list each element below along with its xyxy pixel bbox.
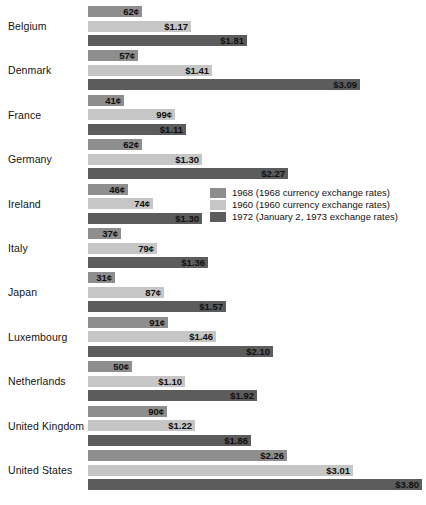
bar-value-label: 31¢	[96, 271, 115, 284]
bar-group: 74¢	[88, 198, 153, 209]
bar-value-label: $1.57	[199, 300, 226, 313]
bar-value-label: $1.41	[185, 64, 212, 77]
bar-value-label: $1.46	[189, 330, 216, 343]
bar-value-label: $1.30	[175, 153, 202, 166]
bar-group: 62¢	[88, 6, 142, 17]
bar-value-label: 99¢	[156, 108, 175, 121]
chart-row: Italy37¢79¢$1.36	[0, 228, 426, 268]
bar-value-label: $3.01	[326, 464, 353, 477]
bar	[88, 479, 422, 490]
category-label: Germany	[8, 153, 52, 165]
bar-group: $1.86	[88, 435, 251, 446]
bar	[88, 465, 353, 476]
legend-item: 1972 (January 2, 1973 exchange rates)	[210, 211, 422, 223]
bar-group: 50¢	[88, 361, 132, 372]
bar-group: $1.81	[88, 35, 247, 46]
legend-swatch-icon	[210, 188, 226, 198]
bar-group: 41¢	[88, 95, 124, 106]
chart-row: Luxembourg91¢$1.46$2.10	[0, 317, 426, 357]
legend-item-label: 1972 (January 2, 1973 exchange rates)	[232, 211, 398, 223]
bar-value-label: 62¢	[123, 138, 142, 151]
bar-group: 90¢	[88, 406, 167, 417]
bar-group: $2.27	[88, 168, 288, 179]
bar-group: $1.22	[88, 420, 195, 431]
chart-row: United States$2.26$3.01$3.80	[0, 450, 426, 490]
bar-group: 79¢	[88, 243, 157, 254]
chart-row: Japan31¢87¢$1.57	[0, 272, 426, 312]
chart-row: France41¢99¢$1.11	[0, 95, 426, 135]
bar-group: 87¢	[88, 287, 164, 298]
bar-group: $1.10	[88, 376, 185, 387]
bar-group: $3.09	[88, 79, 360, 90]
chart-row: Germany62¢$1.30$2.27	[0, 139, 426, 179]
bar-group: 91¢	[88, 317, 168, 328]
bar-chart: Belgium62¢$1.17$1.81Denmark57¢$1.41$3.09…	[0, 0, 426, 505]
chart-row: United Kingdom90¢$1.22$1.86	[0, 406, 426, 446]
category-label: Italy	[8, 242, 28, 254]
legend-item-label: 1968 (1968 currency exchange rates)	[232, 187, 390, 199]
bar-value-label: $1.30	[175, 212, 202, 225]
bar-group: $1.11	[88, 124, 186, 135]
bar-group: $1.30	[88, 154, 202, 165]
category-label: Netherlands	[8, 375, 66, 387]
bar-value-label: $1.11	[160, 123, 186, 136]
bar-value-label: $3.80	[395, 478, 422, 491]
bar-value-label: $1.17	[164, 20, 191, 33]
bar-value-label: 37¢	[102, 227, 121, 240]
legend-swatch-icon	[210, 200, 226, 210]
bar-group: 31¢	[88, 272, 115, 283]
bar-value-label: 57¢	[119, 49, 138, 62]
bar-value-label: $1.22	[168, 419, 195, 432]
bar-value-label: $1.86	[224, 434, 251, 447]
bar-group: 99¢	[88, 109, 175, 120]
bar-group: 62¢	[88, 139, 142, 150]
bar-group: 57¢	[88, 50, 138, 61]
category-label: France	[8, 109, 41, 121]
chart-row: Netherlands50¢$1.10$1.92	[0, 361, 426, 401]
bar-group: $2.26	[88, 450, 287, 461]
bar-value-label: $3.09	[333, 78, 360, 91]
chart-row: Denmark57¢$1.41$3.09	[0, 50, 426, 90]
category-label: Japan	[8, 286, 37, 298]
bar-group: $1.46	[88, 331, 216, 342]
bar-group: $1.92	[88, 390, 257, 401]
category-label: Denmark	[8, 64, 51, 76]
bar-value-label: $2.26	[260, 449, 287, 462]
bar-value-label: 74¢	[134, 197, 153, 210]
bar-value-label: 79¢	[138, 242, 157, 255]
bar-value-label: 46¢	[109, 183, 128, 196]
bar-value-label: $1.10	[158, 375, 185, 388]
bar	[88, 450, 287, 461]
bar-value-label: 62¢	[123, 5, 142, 18]
bar	[88, 79, 360, 90]
bar-group: $1.17	[88, 21, 191, 32]
bar-group: 37¢	[88, 228, 121, 239]
category-label: Luxembourg	[8, 331, 67, 343]
chart-legend: 1968 (1968 currency exchange rates) 1960…	[210, 187, 422, 223]
bar-value-label: $1.81	[220, 34, 247, 47]
chart-row: Belgium62¢$1.17$1.81	[0, 6, 426, 46]
bar-value-label: $2.10	[246, 345, 273, 358]
bar-group: 46¢	[88, 184, 128, 195]
bar-group: $3.80	[88, 479, 422, 490]
bar-value-label: $1.36	[181, 256, 208, 269]
bar-value-label: $2.27	[261, 167, 288, 180]
bar-value-label: $1.92	[230, 389, 257, 402]
bar-group: $1.57	[88, 301, 226, 312]
legend-swatch-icon	[210, 212, 226, 222]
bar-group: $3.01	[88, 465, 353, 476]
bar-group: $1.30	[88, 213, 202, 224]
chart-footnote	[8, 497, 418, 505]
category-label: Belgium	[8, 20, 47, 32]
bar-value-label: 50¢	[113, 360, 132, 373]
bar-group: $2.10	[88, 346, 273, 357]
bar-value-label: 90¢	[148, 405, 167, 418]
bar-group: $1.41	[88, 65, 212, 76]
category-label: United States	[8, 464, 72, 476]
bar-value-label: 41¢	[105, 94, 124, 107]
legend-item: 1960 (1960 currency exchange rates)	[210, 199, 422, 211]
category-label: Ireland	[8, 198, 41, 210]
category-label: United Kingdom	[8, 420, 84, 432]
bar-value-label: 91¢	[149, 316, 168, 329]
bar	[88, 168, 288, 179]
